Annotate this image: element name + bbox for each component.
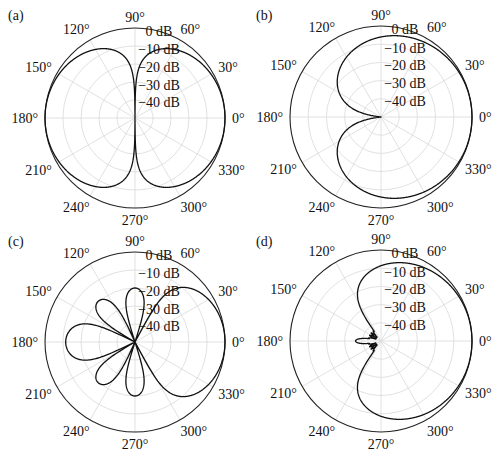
db-ring-label: −10 dB	[138, 42, 180, 57]
angle-label: 0°	[479, 110, 492, 125]
polar-grid	[290, 250, 472, 432]
angle-label: 180°	[256, 334, 283, 349]
polar-panel-d: 0°30°60°90°120°150°180°210°240°270°300°3…	[256, 232, 492, 452]
grid-spoke	[90, 118, 135, 196]
angle-label: 0°	[232, 111, 245, 126]
db-ring-label: −20 dB	[138, 60, 180, 75]
grid-spoke	[90, 40, 135, 118]
db-ring-label: −30 dB	[138, 302, 180, 317]
polar-panel-a: 0°30°60°90°120°150°180°210°240°270°300°3…	[8, 8, 245, 228]
angle-label: 150°	[25, 284, 52, 299]
db-ring-label: −30 dB	[384, 76, 426, 91]
angle-label: 270°	[122, 213, 149, 228]
db-ring-label: 0 dB	[392, 22, 419, 37]
angle-label: 240°	[308, 424, 335, 439]
angle-label: 180°	[11, 335, 38, 350]
angle-label: 90°	[125, 234, 145, 249]
angle-label: 60°	[427, 244, 447, 259]
panel-label: (b)	[256, 8, 273, 24]
angle-label: 300°	[427, 424, 454, 439]
angle-label: 210°	[25, 163, 52, 178]
grid-spoke	[135, 118, 180, 196]
angle-label: 210°	[25, 387, 52, 402]
grid-spoke	[57, 118, 135, 163]
angle-label: 240°	[63, 424, 90, 439]
angle-label: 270°	[368, 437, 395, 452]
db-ring-label: 0 dB	[392, 246, 419, 261]
polar-patterns-figure: 0°30°60°90°120°150°180°210°240°270°300°3…	[0, 0, 499, 457]
db-ring-label: 0 dB	[146, 248, 173, 263]
db-ring-label: −30 dB	[384, 300, 426, 315]
polar-panel-b: 0°30°60°90°120°150°180°210°240°270°300°3…	[256, 8, 492, 228]
angle-label: 30°	[218, 284, 238, 299]
grid-spoke	[302, 296, 381, 342]
angle-label: 120°	[63, 22, 90, 37]
angle-label: 60°	[181, 246, 201, 261]
angle-label: 330°	[218, 387, 245, 402]
angle-label: 90°	[371, 232, 391, 247]
db-ring-label: −20 dB	[384, 58, 426, 73]
grid-spoke	[381, 341, 460, 387]
angle-label: 180°	[11, 111, 38, 126]
angle-label: 180°	[256, 110, 283, 125]
angle-label: 240°	[63, 200, 90, 215]
angle-label: 150°	[270, 282, 297, 297]
grid-spoke	[302, 341, 381, 387]
angle-label: 0°	[232, 335, 245, 350]
grid-spoke	[135, 118, 213, 163]
db-ring-label: −40 dB	[138, 95, 180, 110]
grid-spoke	[336, 117, 382, 196]
angle-label: 300°	[427, 200, 454, 215]
angle-label: 60°	[181, 22, 201, 37]
grid-spoke	[302, 117, 381, 163]
grid-spoke	[336, 38, 382, 117]
angle-label: 210°	[270, 386, 297, 401]
db-ring-label: −40 dB	[384, 318, 426, 333]
angle-label: 60°	[427, 20, 447, 35]
angle-label: 0°	[479, 334, 492, 349]
angle-label: 300°	[181, 200, 208, 215]
angle-label: 330°	[465, 386, 492, 401]
polar-panel-c: 0°30°60°90°120°150°180°210°240°270°300°3…	[8, 234, 245, 452]
angle-label: 30°	[465, 282, 485, 297]
angle-label: 120°	[63, 246, 90, 261]
angle-label: 120°	[308, 244, 335, 259]
db-ring-label: −10 dB	[138, 266, 180, 281]
angle-labels: 0°30°60°90°120°150°180°210°240°270°300°3…	[256, 232, 491, 452]
angle-label: 330°	[218, 163, 245, 178]
angle-label: 330°	[465, 162, 492, 177]
angle-label: 90°	[125, 10, 145, 25]
angle-label: 150°	[25, 60, 52, 75]
grid-spoke	[57, 73, 135, 118]
db-ring-label: −10 dB	[384, 265, 426, 280]
angle-label: 90°	[371, 8, 391, 23]
db-ring-label: −10 dB	[384, 41, 426, 56]
angle-label: 120°	[308, 20, 335, 35]
db-ring-label: 0 dB	[146, 24, 173, 39]
db-ring-label: −40 dB	[384, 94, 426, 109]
angle-label: 300°	[181, 424, 208, 439]
grid-spoke	[381, 341, 427, 420]
angle-label: 270°	[368, 213, 395, 228]
db-ring-label: −40 dB	[138, 319, 180, 334]
grid-spoke	[381, 117, 460, 163]
angle-label: 210°	[270, 162, 297, 177]
angle-labels: 0°30°60°90°120°150°180°210°240°270°300°3…	[11, 234, 244, 452]
db-ring-label: −20 dB	[138, 284, 180, 299]
angle-label: 30°	[218, 60, 238, 75]
grid-spoke	[381, 117, 427, 196]
angle-labels: 0°30°60°90°120°150°180°210°240°270°300°3…	[11, 10, 244, 228]
angle-label: 30°	[465, 58, 485, 73]
angle-label: 270°	[122, 437, 149, 452]
db-ring-label: −30 dB	[138, 78, 180, 93]
db-ring-label: −20 dB	[384, 282, 426, 297]
angle-label: 240°	[308, 200, 335, 215]
grid-spoke	[302, 72, 381, 118]
panel-label: (d)	[256, 234, 273, 250]
panel-label: (a)	[8, 8, 24, 24]
angle-label: 150°	[270, 58, 297, 73]
panel-label: (c)	[8, 234, 24, 250]
